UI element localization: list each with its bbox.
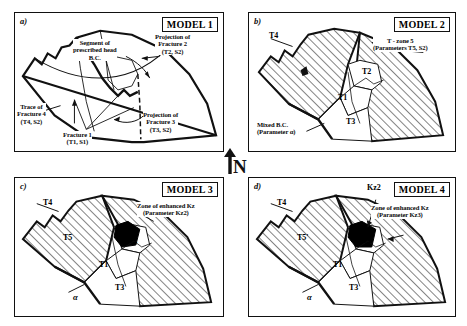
model-title: MODEL 3 [162, 182, 218, 197]
zone-label-t4: T4 [43, 198, 52, 207]
prescribed-head-polygon [106, 56, 138, 90]
panel-a-diagram [15, 13, 223, 151]
zone-label-t3: T3 [115, 283, 124, 292]
panel-d-model-4: d) MODEL 4 Kz2 Zone of enhanced Kz (Para… [248, 177, 456, 317]
north-arrow-icon: N [213, 146, 255, 176]
zone-label-t4: T4 [269, 31, 278, 40]
fracture-1-edge [86, 108, 134, 130]
panel-c-model-3: c) MODEL 3 Zone of enhanced Kz (Paramete… [14, 177, 224, 317]
annotation-zone-enhanced-kz: Zone of enhanced Kz (Parameter Kz3) [371, 204, 429, 219]
annotation-mixed-bc: Mixed B.C. (Parameter α) [257, 121, 295, 136]
arrowhead-fracture-1 [72, 100, 77, 106]
fracture-4-trace [23, 76, 216, 135]
panel-tag: a) [20, 17, 27, 27]
zone-label-t2: T2 [128, 236, 137, 245]
alpha-symbol: α [73, 292, 78, 302]
panel-b-model-2: b) MODEL 2 T - zone 5 (Parameters T5, S2… [248, 12, 456, 152]
model-title: MODEL 1 [162, 17, 218, 32]
zone-label-t4: T4 [277, 198, 286, 207]
annotation-kz2-pointer: Kz2 [367, 183, 381, 192]
annotation-t-zone-5: T - zone 5 (Parameters T5, S2) [373, 37, 428, 52]
zone-label-t1: T1 [338, 93, 347, 102]
annotation-segment-prescribed-head-bc: Segment of prescribed head B.C. [73, 39, 117, 61]
zone-label-t5: T5 [63, 233, 72, 242]
zone-label-t3: T3 [349, 283, 358, 292]
zone-label-t2: T2 [362, 67, 371, 76]
annotation-zone-enhanced-kz: Zone of enhanced Kz (Parameter Kz2) [137, 202, 195, 217]
model-title: MODEL 2 [394, 17, 450, 32]
leader-mixed-bc [306, 123, 324, 131]
panel-tag: c) [20, 182, 26, 192]
annotation-projection-fracture-2: Projection of Fracture 2 (T2, S2) [155, 33, 190, 55]
north-letter: N [233, 156, 247, 176]
panel-tag: d) [254, 182, 261, 192]
figure-four-panel-models: a) MODEL 1 Segment of prescribed head B.… [0, 0, 467, 326]
panel-tag: b) [254, 17, 261, 27]
zone-label-t1: T1 [333, 260, 342, 269]
zone-label-t2: T2 [362, 236, 371, 245]
annotation-trace-fracture-4: Trace of Fracture 4 (T4, S2) [17, 103, 46, 125]
arrowhead-fracture-2 [142, 56, 148, 61]
zone-label-t3: T3 [346, 117, 355, 126]
north-arrow: N [213, 146, 255, 176]
zone-label-t5-prime: T5' [297, 233, 309, 242]
fracture-3-projection [138, 74, 141, 139]
alpha-symbol: α [307, 292, 312, 302]
annotation-projection-fracture-3: Projection of Fracture 3 (T3, S2) [143, 111, 178, 133]
zone-label-t1: T1 [99, 260, 108, 269]
model-title: MODEL 4 [394, 182, 450, 197]
panel-a-model-1: a) MODEL 1 Segment of prescribed head B.… [14, 12, 224, 152]
fracture-1-wedge [74, 96, 118, 130]
annotation-fracture-1: Fracture 1 (T1, S1) [63, 131, 92, 146]
